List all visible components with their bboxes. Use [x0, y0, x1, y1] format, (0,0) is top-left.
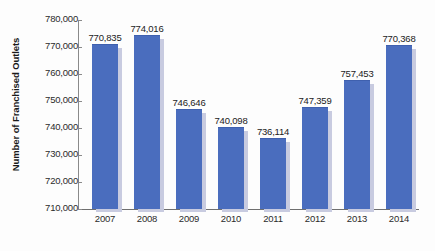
x-tick-label: 2013	[337, 213, 377, 224]
y-tick: 780,000	[14, 20, 78, 21]
y-tick: 710,000	[14, 209, 78, 210]
y-tick-mark	[78, 74, 82, 75]
x-tick-label: 2010	[211, 213, 251, 224]
bar-value-label: 770,835	[89, 32, 122, 43]
bar-rect[interactable]	[260, 138, 286, 210]
bar-value-label: 747,359	[299, 95, 332, 106]
x-tick-label: 2012	[295, 213, 335, 224]
y-tick-label: 760,000	[20, 68, 78, 78]
y-tick-mark	[78, 209, 82, 210]
bar-value-label: 746,646	[173, 97, 206, 108]
bar-value-label: 757,453	[341, 68, 374, 79]
y-tick-label: 740,000	[20, 122, 78, 132]
x-tick-label: 2009	[169, 213, 209, 224]
y-tick-label: 710,000	[20, 203, 78, 213]
x-tick-label: 2008	[127, 213, 167, 224]
y-tick: 740,000	[14, 128, 78, 129]
bar-item[interactable]: 747,359	[302, 108, 333, 209]
y-tick: 730,000	[14, 155, 78, 156]
y-tick-label: 780,000	[20, 14, 78, 24]
bar-rect[interactable]	[92, 44, 118, 209]
bar-item[interactable]: 774,016	[134, 36, 165, 209]
bar-chart: Number of Franchised Outlets 710,000720,…	[0, 0, 435, 251]
y-tick: 720,000	[14, 182, 78, 183]
y-tick-mark	[78, 101, 82, 102]
bar-rect[interactable]	[344, 80, 370, 209]
bar-item[interactable]: 736,114	[260, 139, 291, 210]
y-tick-mark	[78, 155, 82, 156]
y-tick-label: 730,000	[20, 149, 78, 159]
bar-value-label: 774,016	[131, 23, 164, 34]
y-tick-label: 770,000	[20, 41, 78, 51]
y-tick: 760,000	[14, 74, 78, 75]
bar-item[interactable]: 770,368	[386, 46, 417, 209]
y-tick-mark	[78, 20, 82, 21]
bar-rect[interactable]	[218, 127, 244, 209]
bar-value-label: 740,098	[215, 115, 248, 126]
bar-item[interactable]: 757,453	[344, 81, 375, 209]
x-tick-label: 2014	[379, 213, 419, 224]
x-tick-label: 2011	[253, 213, 293, 224]
bar-item[interactable]: 746,646	[176, 110, 207, 209]
plot-area: 710,000720,000730,000740,000750,000760,0…	[0, 0, 435, 251]
bar-rect[interactable]	[386, 45, 412, 209]
bar-rect[interactable]	[134, 35, 160, 209]
bar-rect[interactable]	[302, 107, 328, 209]
y-tick-mark	[78, 47, 82, 48]
bar-item[interactable]: 770,835	[92, 45, 123, 209]
y-tick-mark	[78, 182, 82, 183]
bar-value-label: 770,368	[383, 33, 416, 44]
y-tick: 770,000	[14, 47, 78, 48]
bar-value-label: 736,114	[257, 126, 289, 137]
bar-rect[interactable]	[176, 109, 202, 209]
y-tick-label: 750,000	[20, 95, 78, 105]
bar-item[interactable]: 740,098	[218, 128, 249, 209]
y-tick: 750,000	[14, 101, 78, 102]
y-tick-label: 720,000	[20, 176, 78, 186]
y-tick-mark	[78, 128, 82, 129]
x-tick-label: 2007	[85, 213, 125, 224]
